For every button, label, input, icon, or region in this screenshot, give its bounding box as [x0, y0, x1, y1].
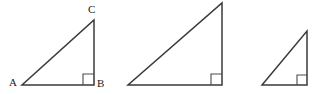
- vertex-label-c: C: [88, 4, 95, 15]
- triangle-3-group: [262, 31, 307, 85]
- triangle-2-right-angle-marker: [211, 74, 222, 85]
- triangle-1-right-angle-marker: [83, 74, 94, 85]
- triangle-2-group: [128, 3, 222, 85]
- triangle-3-right-angle-marker: [297, 75, 307, 85]
- triangle-1-group: [22, 20, 94, 85]
- vertex-label-a: A: [9, 77, 17, 88]
- vertex-label-b: B: [97, 78, 104, 89]
- triangles-canvas: [0, 0, 322, 94]
- triangle-2-outline: [128, 3, 222, 85]
- triangle-3-outline: [262, 31, 307, 85]
- geometry-figure: A B C: [0, 0, 322, 94]
